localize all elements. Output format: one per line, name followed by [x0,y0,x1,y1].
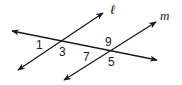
angle-7-label: 7 [83,50,90,64]
angle-5-label: 5 [108,55,115,69]
line-l-label: ℓ [110,2,116,17]
line-m-label: m [160,8,169,23]
line-m [64,22,156,80]
diagram-canvas: ℓ m 1 3 9 7 5 [0,0,182,85]
angle-3-label: 3 [59,45,66,59]
line-l [18,13,103,70]
angle-9-label: 9 [105,35,112,49]
angle-1-label: 1 [36,38,43,52]
